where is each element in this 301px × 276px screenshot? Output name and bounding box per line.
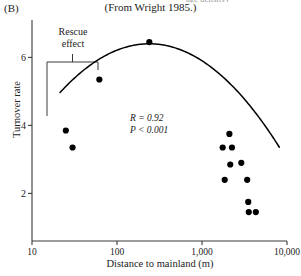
x-axis-ticks <box>32 241 287 245</box>
data-point <box>222 177 228 183</box>
data-point <box>238 160 244 166</box>
rescue-effect-line2: effect <box>44 38 102 50</box>
data-point <box>226 131 232 137</box>
rescue-effect-bracket <box>47 54 98 116</box>
data-point <box>220 144 226 150</box>
data-point <box>69 144 75 150</box>
x-tick-label: 1,000 <box>191 247 212 257</box>
stat-r-value: R = 0.92 <box>130 112 168 124</box>
data-point <box>227 161 233 167</box>
y-tick-label: 6 <box>6 52 26 63</box>
x-tick-label: 10 <box>27 247 37 257</box>
figure-panel-b: age density) (From Wright 1985.) (B) Tur… <box>0 0 301 276</box>
x-tick-label: 100 <box>110 247 124 257</box>
data-point <box>229 144 235 150</box>
rescue-effect-line1: Rescue <box>44 26 102 38</box>
x-tick-label: 10,000 <box>274 247 300 257</box>
data-point <box>96 76 102 82</box>
y-axis-ticks <box>28 57 32 193</box>
x-axis-title: Distance to mainland (m) <box>32 258 288 269</box>
statistics-annotation: R = 0.92 P < 0.001 <box>130 112 168 136</box>
y-axis-title: Turnover rate <box>11 70 22 150</box>
y-tick-label: 4 <box>6 120 26 131</box>
data-point <box>253 209 259 215</box>
data-point <box>63 127 69 133</box>
fitted-curve <box>60 44 279 147</box>
data-point <box>246 209 252 215</box>
stat-p-value: P < 0.001 <box>130 124 168 136</box>
data-point <box>245 199 251 205</box>
data-point <box>244 177 250 183</box>
y-tick-label: 2 <box>6 188 26 199</box>
rescue-effect-label: Rescue effect <box>44 26 102 50</box>
data-point <box>146 39 152 45</box>
